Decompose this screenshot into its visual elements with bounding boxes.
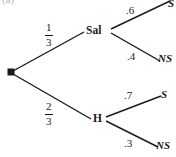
branch-sal-to-s bbox=[111, 1, 170, 29]
branch-h-to-s bbox=[106, 96, 161, 117]
outcome-label-sal-ns: NS bbox=[158, 53, 172, 64]
fraction-numerator: 2 bbox=[45, 101, 53, 114]
fraction-denominator: 3 bbox=[45, 114, 53, 128]
branch-label-sal-to-s: .6 bbox=[126, 5, 134, 16]
outcome-label-sal-s: S bbox=[168, 0, 174, 9]
branch-label-sal-to-ns: .4 bbox=[127, 51, 135, 62]
branch-label-h-to-ns: .3 bbox=[124, 138, 132, 149]
fraction-one-third: 1 3 bbox=[45, 22, 53, 48]
fraction-numerator: 1 bbox=[45, 22, 53, 35]
branch-sal-to-ns bbox=[111, 33, 160, 61]
branch-label-h-to-s: .7 bbox=[124, 90, 132, 101]
branch-label-root-to-h: 2 3 bbox=[45, 101, 53, 128]
node-label-h: H bbox=[93, 113, 102, 125]
fraction-denominator: 3 bbox=[45, 35, 53, 49]
probability-tree-figure: (a) 1 3 2 3 Sal H .6 .4 .7 .3 S NS S NS bbox=[0, 0, 176, 157]
branch-label-root-to-sal: 1 3 bbox=[45, 22, 53, 49]
outcome-label-h-s: S bbox=[161, 89, 167, 100]
root-node-marker bbox=[8, 69, 15, 76]
node-label-sal: Sal bbox=[86, 25, 102, 37]
outcome-label-h-ns: NS bbox=[156, 140, 170, 151]
figure-caption: (a) bbox=[2, 0, 14, 5]
fraction-two-thirds: 2 3 bbox=[45, 101, 53, 127]
